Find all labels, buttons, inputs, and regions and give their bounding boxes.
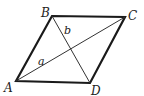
diagram-svg: A B C D a b	[0, 0, 144, 96]
vertex-label-c: C	[128, 9, 137, 23]
diagonal-label-a: a	[38, 55, 45, 68]
vertex-label-d: D	[90, 84, 101, 96]
diagonal-label-b: b	[64, 24, 71, 37]
vertex-label-a: A	[3, 81, 13, 95]
vertex-label-b: B	[40, 6, 50, 20]
parallelogram-diagram: A B C D a b	[0, 0, 144, 96]
